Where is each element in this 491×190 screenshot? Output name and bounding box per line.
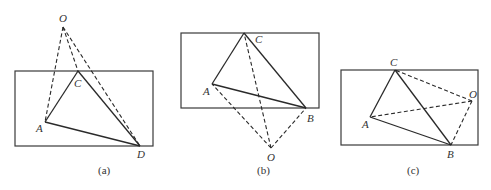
figure-b-edge-OA (212, 84, 271, 148)
figure-c-rectangle (341, 70, 478, 145)
figure-b: C A B O (b) (181, 33, 319, 177)
figure-b-label-A: A (202, 85, 210, 97)
figure-c-caption: (c) (407, 164, 420, 177)
figure-b-label-B: B (307, 112, 314, 124)
figure-a-edge-CD (78, 71, 140, 146)
figure-a-edge-OC (63, 27, 78, 71)
figure-b-rectangle (181, 33, 319, 108)
figure-b-label-C: C (255, 33, 263, 45)
figure-b-edge-AB (212, 84, 306, 108)
figure-a-label-A: A (35, 122, 43, 134)
figure-c-edge-AC (370, 70, 395, 117)
figure-a-label-O: O (59, 12, 67, 24)
figure-b-edge-OB (271, 108, 306, 148)
figure-a-label-D: D (136, 148, 145, 160)
figure-c-label-A: A (361, 118, 369, 130)
figure-c: C O A B (c) (341, 56, 478, 177)
figure-c-label-B: B (447, 148, 454, 160)
figure-c-edge-OB (451, 101, 472, 145)
geometry-figures: O C A D (a) C A B O (b) C O A B (c) (0, 0, 491, 190)
figure-a-caption: (a) (98, 164, 111, 177)
figure-b-caption: (b) (257, 164, 270, 177)
figure-a-rectangle (15, 71, 153, 146)
figure-c-label-C: C (390, 56, 398, 68)
figure-a: O C A D (a) (15, 12, 153, 177)
figure-c-label-O: O (469, 88, 477, 100)
figure-c-edge-OA (370, 101, 472, 117)
figure-b-label-O: O (267, 151, 275, 163)
figure-a-edge-AD (45, 122, 140, 146)
figure-c-edge-AB (370, 117, 451, 145)
figure-b-edge-AC (212, 33, 244, 84)
figure-a-label-C: C (74, 77, 82, 89)
